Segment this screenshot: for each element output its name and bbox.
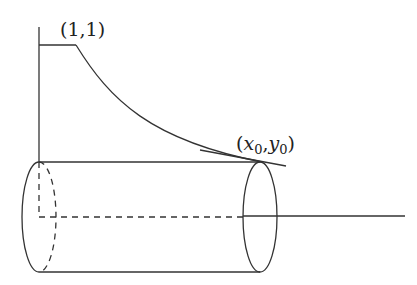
left-ellipse-front <box>22 162 39 272</box>
diagram-canvas: (1,1) (x0,y0) <box>0 0 417 285</box>
diagram-svg <box>0 0 417 285</box>
right-ellipse <box>243 162 277 272</box>
curve <box>76 45 262 162</box>
var-y: y <box>268 132 279 154</box>
label-top-point: (1,1) <box>60 18 105 40</box>
paren-close: ) <box>287 132 294 154</box>
var-x: x <box>243 132 254 154</box>
label-end-point: (x0,y0) <box>236 132 295 157</box>
